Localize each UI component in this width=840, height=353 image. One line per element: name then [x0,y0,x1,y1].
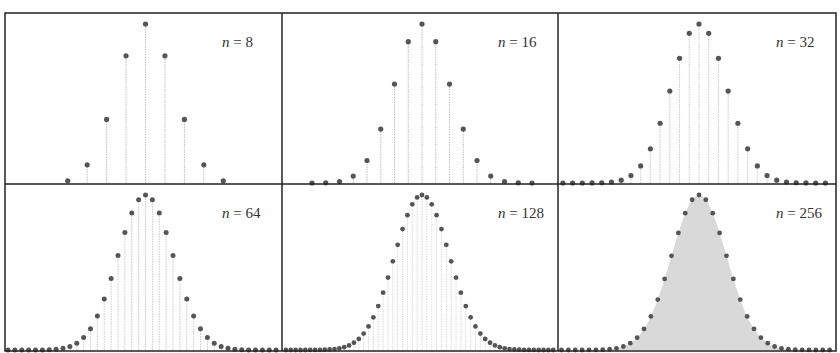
data-point [502,346,507,351]
panels-group: n = 8n = 16n = 32n = 64n = 128n = 256 [6,21,833,352]
data-point [376,304,381,309]
data-point [347,343,352,348]
data-point [468,315,473,320]
data-point [177,276,182,281]
data-point [361,331,366,336]
data-point [726,89,731,94]
data-point [614,346,619,351]
data-point [461,126,466,131]
panel-label: n = 256 [776,205,822,221]
data-point [386,275,391,280]
data-point [309,180,314,185]
data-point [493,343,498,348]
data-point [81,335,86,340]
label-value: = 128 [506,205,544,221]
data-point [212,341,217,346]
data-point [116,253,121,258]
data-point [447,81,452,86]
data-point [497,345,502,350]
data-point [529,180,534,185]
data-point [424,195,429,200]
data-point [136,197,141,202]
label-value: = 16 [506,34,537,50]
panel-n-32: n = 32 [560,21,828,185]
data-point [488,340,493,345]
data-point [65,178,70,183]
data-point [182,117,187,122]
data-point [619,178,624,183]
data-point [157,210,162,215]
data-point [201,162,206,167]
data-point [434,213,439,218]
panel-n-64: n = 64 [6,193,279,353]
data-point [109,276,114,281]
data-point [642,327,647,332]
data-point [444,242,449,247]
panel-n-8: n = 8 [65,21,253,183]
data-point [706,31,711,36]
data-point [171,253,176,258]
data-point [205,335,210,340]
panel-label: n = 32 [776,34,814,50]
data-point [570,180,575,185]
data-point [123,53,128,58]
data-point [765,341,770,346]
data-point [337,346,342,351]
data-point [731,276,736,281]
data-point [463,304,468,309]
data-point [104,117,109,122]
data-point [143,193,148,198]
data-point [415,195,420,200]
data-point [150,197,155,202]
data-point [697,193,702,198]
data-point [198,326,203,331]
data-point [410,202,415,207]
data-point [648,314,653,319]
data-point [690,197,695,202]
data-point [772,344,777,349]
data-point [735,121,740,126]
data-point [658,121,663,126]
binomial-stem-plot-grid: n = 8n = 16n = 32n = 64n = 128n = 256 [0,0,840,353]
data-point [676,230,681,235]
data-point [710,211,715,216]
data-point [449,259,454,264]
data-point [420,193,425,198]
data-point [724,253,729,258]
label-value: = 64 [230,205,261,221]
data-point [433,39,438,44]
label-variable: n [222,34,230,50]
data-point [589,180,594,185]
data-point [352,340,357,345]
label-variable: n [776,205,784,221]
data-point [703,197,708,202]
data-point [667,89,672,94]
data-point [648,146,653,151]
label-value: = 8 [230,34,253,50]
data-point [85,162,90,167]
data-point [390,259,395,264]
data-point [560,180,565,185]
data-point [745,314,750,319]
data-point [439,227,444,232]
data-point [628,341,633,346]
data-point [400,227,405,232]
data-point [342,345,347,350]
data-point [774,178,779,183]
data-point [61,346,66,351]
data-point [458,290,463,295]
data-point [226,346,231,351]
data-point [219,344,224,349]
panel-label: n = 64 [222,205,261,221]
data-point [483,337,488,342]
panel-label: n = 16 [498,34,537,50]
data-point [454,275,459,280]
data-point [356,337,361,342]
data-point [102,297,107,302]
data-point [162,53,167,58]
data-point [669,253,674,258]
data-point [406,39,411,44]
data-point [478,331,483,336]
data-point [716,56,721,61]
data-point [635,335,640,340]
